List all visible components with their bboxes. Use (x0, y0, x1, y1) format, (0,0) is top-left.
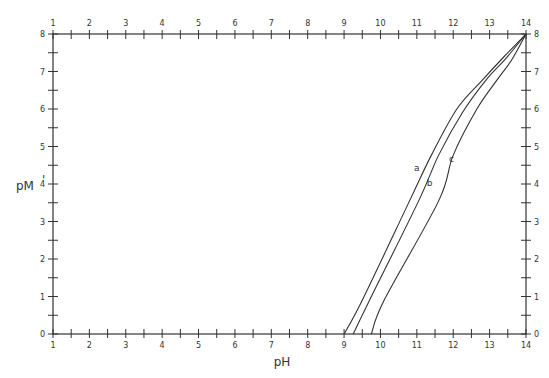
y-tick-label-left: 2 (40, 255, 45, 264)
x-tick-label-bottom: 1 (50, 341, 55, 350)
x-tick-label-top: 11 (412, 19, 422, 28)
x-tick-label-bottom: 7 (269, 341, 274, 350)
x-tick-label-bottom: 11 (412, 341, 422, 350)
y-tick-label-left: 6 (40, 105, 45, 114)
y-tick-label-left: 5 (40, 143, 45, 152)
y-tick-label-right: 4 (534, 180, 539, 189)
x-tick-label-top: 13 (485, 19, 495, 28)
x-tick-label-bottom: 5 (196, 341, 201, 350)
y-tick-label-left: 8 (40, 30, 45, 39)
x-tick-label-bottom: 10 (375, 341, 385, 350)
x-tick-label-bottom: 13 (485, 341, 495, 350)
y-tick-label-right: 1 (534, 293, 539, 302)
axis-ticks: 1122334455667788991010111112121313141400… (40, 19, 539, 350)
x-tick-label-top: 12 (448, 19, 458, 28)
x-tick-label-bottom: 9 (342, 341, 347, 350)
y-tick-label-right: 2 (534, 255, 539, 264)
x-tick-label-top: 8 (305, 19, 310, 28)
plot-frame (53, 34, 526, 334)
y-axis-label: pM (16, 179, 34, 193)
y-tick-label-right: 0 (534, 330, 539, 339)
x-tick-label-top: 6 (232, 19, 237, 28)
x-tick-label-top: 9 (342, 19, 347, 28)
curve-a (344, 34, 526, 334)
x-tick-label-bottom: 3 (123, 341, 128, 350)
x-tick-label-top: 3 (123, 19, 128, 28)
y-tick-label-right: 7 (534, 68, 539, 77)
curve-b (353, 34, 526, 334)
x-tick-label-top: 1 (50, 19, 55, 28)
curve-labels: abc (414, 154, 454, 188)
x-tick-label-top: 2 (87, 19, 92, 28)
y-tick-label-left: 0 (40, 330, 45, 339)
curves (344, 34, 526, 334)
x-tick-label-bottom: 2 (87, 341, 92, 350)
y-tick-label-right: 8 (534, 30, 539, 39)
y-axis-label-prime: ' (42, 173, 45, 187)
y-tick-label-left: 7 (40, 68, 45, 77)
y-tick-label-left: 3 (40, 218, 45, 227)
x-tick-label-bottom: 8 (305, 341, 310, 350)
x-tick-label-bottom: 12 (448, 341, 458, 350)
x-tick-label-top: 14 (521, 19, 531, 28)
x-tick-label-bottom: 6 (232, 341, 237, 350)
x-tick-label-top: 4 (160, 19, 165, 28)
curve-label-b: b (427, 178, 433, 188)
plot-border (53, 34, 526, 334)
x-tick-label-top: 10 (375, 19, 385, 28)
y-tick-label-left: 1 (40, 293, 45, 302)
x-tick-label-bottom: 14 (521, 341, 531, 350)
y-tick-label-right: 6 (534, 105, 539, 114)
x-axis-label: pH (274, 355, 291, 369)
x-tick-label-top: 5 (196, 19, 201, 28)
x-tick-label-top: 7 (269, 19, 274, 28)
y-tick-label-right: 3 (534, 218, 539, 227)
chart: 1122334455667788991010111112121313141400… (0, 0, 549, 378)
x-tick-label-bottom: 4 (160, 341, 165, 350)
y-tick-label-right: 5 (534, 143, 539, 152)
curve-label-a: a (414, 163, 420, 173)
curve-label-c: c (449, 154, 454, 164)
curve-c (371, 34, 526, 334)
